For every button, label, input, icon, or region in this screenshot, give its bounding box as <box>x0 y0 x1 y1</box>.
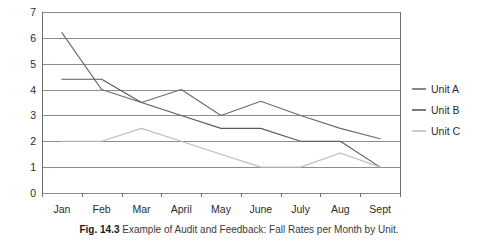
y-tick-label: 5 <box>20 59 36 70</box>
caption-text: Example of Audit and Feedback: Fall Rate… <box>122 224 398 235</box>
x-tick-label: Sept <box>356 204 404 215</box>
caption-number: Fig. 14.3 <box>79 224 119 235</box>
y-tick-label: 2 <box>20 136 36 147</box>
figure-caption: Fig. 14.3 Example of Audit and Feedback:… <box>0 224 478 236</box>
y-tick-label: 7 <box>20 7 36 18</box>
legend-label-unit-c: Unit C <box>431 126 460 137</box>
y-tick-label: 0 <box>20 188 36 199</box>
y-tick-label: 6 <box>20 33 36 44</box>
legend-label-unit-b: Unit B <box>431 105 460 116</box>
legend-label-unit-a: Unit A <box>431 84 459 95</box>
figure-container: 01234567 JanFebMarAprilMayJuneJulyAugSep… <box>0 0 478 244</box>
y-tick-label: 3 <box>20 110 36 121</box>
y-tick-label: 1 <box>20 162 36 173</box>
y-tick-label: 4 <box>20 85 36 96</box>
